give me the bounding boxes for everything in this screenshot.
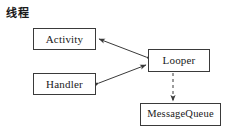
node-activity[interactable]: Activity: [33, 28, 96, 50]
edge-handler-looper: [99, 65, 146, 83]
node-handler[interactable]: Handler: [33, 73, 96, 95]
node-messagequeue[interactable]: MessageQueue: [140, 103, 221, 126]
edge-looper-activity: [99, 39, 146, 57]
node-handler-label: Handler: [46, 79, 83, 90]
node-messagequeue-label: MessageQueue: [147, 109, 214, 120]
node-looper[interactable]: Looper: [148, 49, 210, 72]
node-activity-label: Activity: [46, 34, 84, 45]
diagram-canvas: 线程 Activity Handler Looper MessageQueue: [0, 0, 236, 132]
node-looper-label: Looper: [163, 55, 196, 66]
